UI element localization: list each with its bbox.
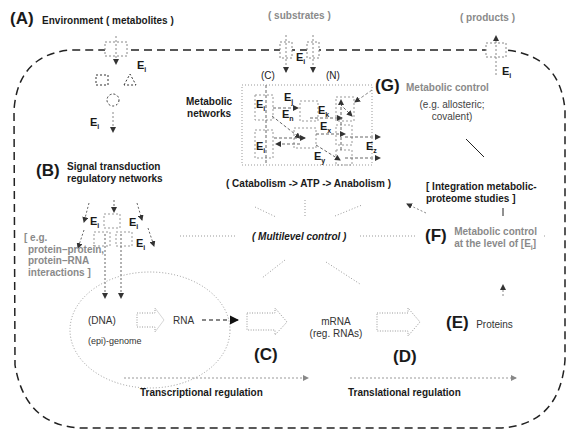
- panel-d-letter: (D): [393, 347, 417, 367]
- panel-f-title: Metabolic control at the level of [Ei]: [454, 226, 537, 252]
- mrna-label: mRNA (reg. RNAs): [300, 316, 372, 339]
- translational-regulation-label: Translational regulation: [348, 387, 461, 399]
- enzyme-b1: Ei: [90, 215, 99, 230]
- enzyme-label-substrate: Ei: [296, 51, 305, 66]
- panel-b-examples: [ e.g. protein–protein, protein–RNA inte…: [24, 232, 104, 278]
- carbon-label: (C): [261, 70, 275, 82]
- panel-f-header: (F) Metabolic control at the level of [E…: [425, 226, 537, 252]
- epigenome-label: (epi)-genome: [88, 336, 142, 346]
- panel-f-letter: (F): [425, 226, 447, 245]
- integration-label: [ Integration metabolic- proteome studie…: [426, 181, 537, 204]
- panel-b-header: (B) Signal transduction regulatory netwo…: [36, 161, 163, 186]
- rna-label: RNA: [173, 315, 194, 327]
- products-label: ( products ): [460, 12, 515, 24]
- substrates-label: ( substrates ): [268, 10, 331, 22]
- panel-g-subtitle: (e.g. allosteric; covalent): [406, 99, 498, 122]
- enzyme-ez: Ez: [366, 140, 377, 155]
- panel-a-title: Environment ( metabolites ): [42, 15, 174, 26]
- enzyme-b2: Ei: [129, 216, 138, 231]
- enzyme-label-a: Ei: [137, 59, 146, 74]
- panel-b-title: Signal transduction regulatory networks: [67, 161, 163, 184]
- enzyme-label-product: Ei: [502, 65, 511, 80]
- enzyme-en: En: [282, 108, 294, 123]
- enzyme-ej: Ej: [284, 91, 293, 106]
- metabolic-networks-label: Metabolic networks: [186, 96, 232, 119]
- panel-a-letter: (A): [10, 9, 34, 28]
- multilevel-control-label: ( Multilevel control ): [252, 231, 346, 243]
- panel-a-header: (A) Environment ( metabolites ): [10, 9, 174, 29]
- enzyme-label-a2: Ei: [90, 116, 99, 131]
- enzyme-ey: Ey: [314, 150, 325, 165]
- panel-c-letter: (C): [254, 345, 278, 365]
- metabolism-caption: ( Catabolism -> ATP -> Anabolism ): [226, 178, 391, 190]
- diagram-canvas: [0, 0, 581, 434]
- panel-g-letter: (G): [375, 76, 400, 95]
- enzyme-el: Ei: [256, 140, 265, 155]
- dna-label: (DNA): [88, 315, 116, 327]
- panel-e-letter: (E): [446, 313, 469, 332]
- transcriptional-regulation-label: Transcriptional regulation: [140, 387, 263, 399]
- enzyme-ex: Ex: [320, 120, 331, 135]
- panel-g-title: Metabolic control: [406, 82, 489, 93]
- panel-e-header: (E) Proteins: [446, 313, 513, 333]
- enzyme-ek: Ek: [318, 104, 329, 119]
- enzyme-ei: Ei: [256, 98, 265, 113]
- nitrogen-label: (N): [326, 70, 340, 82]
- panel-g-header: (G) Metabolic control: [375, 76, 489, 96]
- panel-e-title: Proteins: [476, 319, 513, 330]
- panel-b-letter: (B): [36, 161, 60, 180]
- enzyme-b3: Ei: [136, 237, 145, 252]
